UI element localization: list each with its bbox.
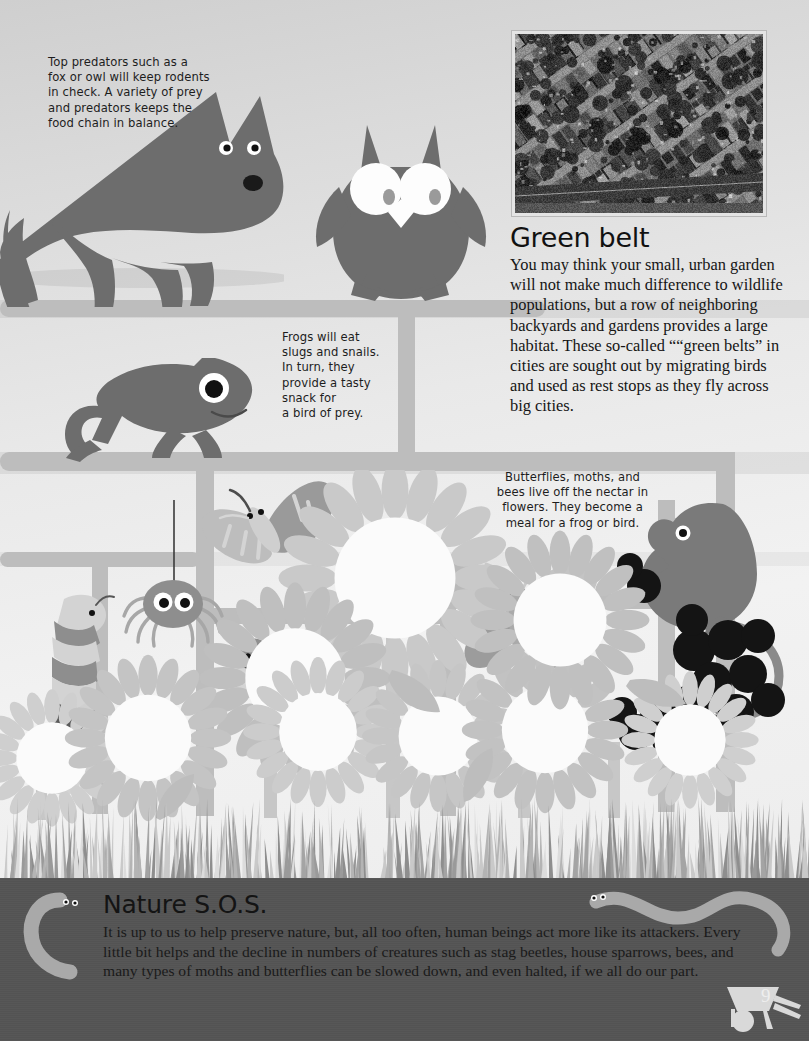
- wheelbarrow-icon: [717, 971, 803, 1037]
- nature-sos-section: Nature S.O.S. It is up to us to help pre…: [103, 890, 743, 981]
- caption-pollinators: Butterflies, moths, and bees live off th…: [470, 470, 675, 531]
- page-number-badge: 9: [717, 971, 803, 1037]
- green-belt-body: You may think your small, urban garden w…: [510, 255, 788, 417]
- sunflower-cluster-illustration: [0, 470, 809, 840]
- grass-band-illustration: [0, 795, 809, 887]
- green-belt-section: Green belt You may think your small, urb…: [510, 222, 788, 417]
- owl-illustration: [315, 105, 487, 310]
- aerial-photo-canvas: [515, 34, 763, 213]
- nature-sos-heading: Nature S.O.S.: [103, 890, 743, 919]
- frog-illustration: [62, 358, 302, 463]
- green-belt-heading: Green belt: [510, 222, 788, 253]
- book-page: Top predators such as a fox or owl will …: [0, 0, 809, 1041]
- page-number: 9: [761, 985, 771, 1007]
- aerial-photo: [512, 31, 766, 216]
- nature-sos-body: It is up to us to help preserve nature, …: [103, 922, 743, 981]
- caption-frogs: Frogs will eat slugs and snails. In turn…: [282, 330, 402, 421]
- caption-top-predators: Top predators such as a fox or owl will …: [48, 55, 233, 131]
